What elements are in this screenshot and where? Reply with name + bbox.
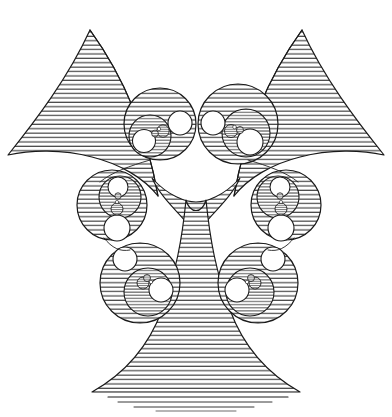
cluster-ml-circle-5 [111,203,123,215]
middle-circle-cluster-right [251,170,321,241]
upper-circle-cluster-right [198,84,278,164]
cluster-ur-circle-7 [233,125,237,129]
lower-circle-cluster-right [218,243,298,323]
fractal-artwork-canvas [0,0,392,417]
cluster-ml-circle-4 [104,215,130,241]
cluster-mr-circle-4 [268,215,294,241]
cluster-ml-circle-7 [115,200,118,203]
cluster-ll-circle-7 [149,280,152,283]
cluster-ul-circle-3 [168,111,192,135]
lower-circle-cluster-left [100,243,180,323]
cluster-ul-circle-6 [152,130,159,137]
cluster-mr-circle-7 [279,200,282,203]
cluster-mr-circle-6 [277,193,283,199]
cluster-ul-circle-7 [157,127,160,130]
cluster-ul-circle-5 [157,125,169,137]
cluster-mr-circle-5 [275,203,287,215]
cluster-lr-circle-6 [248,275,255,282]
figure-root: Recursive Circle Fractal Line Drawing Sy… [0,0,392,417]
cluster-ml-circle-6 [115,193,121,199]
cluster-ur-circle-3 [201,111,225,135]
upper-circle-cluster-left [124,88,196,160]
cluster-ll-circle-6 [144,275,151,282]
cluster-lr-circle-7 [245,280,248,283]
cluster-ur-circle-6 [237,127,244,134]
middle-circle-cluster-left [77,170,147,241]
